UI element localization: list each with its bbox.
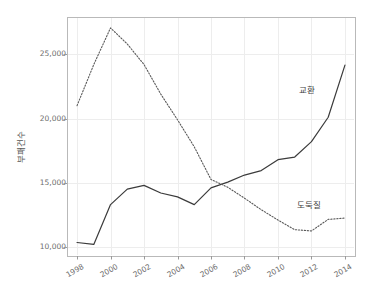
series-label-1: 교환 [299, 83, 315, 95]
chart-container: 부패건수 10,00015,00020,00025,000 1998200020… [0, 0, 387, 295]
series-label-2: 도둑질 [297, 198, 321, 210]
gridlines [68, 18, 354, 255]
plot-area [0, 0, 387, 295]
